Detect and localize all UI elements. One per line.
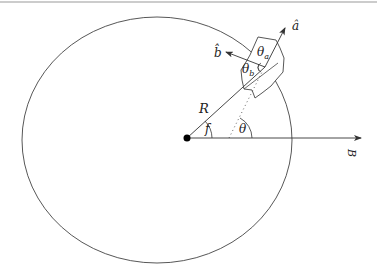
orbit-diagram: â b̂ θa θb R f θ B bbox=[0, 0, 377, 276]
radius-label: R bbox=[198, 101, 209, 116]
theta-label: θ bbox=[239, 122, 247, 136]
focus-dot bbox=[184, 135, 191, 142]
true-anomaly-label: f bbox=[204, 122, 212, 136]
b-hat-label: b̂ bbox=[214, 43, 222, 60]
field-label: B bbox=[345, 148, 358, 157]
a-hat-label: â bbox=[292, 19, 299, 33]
